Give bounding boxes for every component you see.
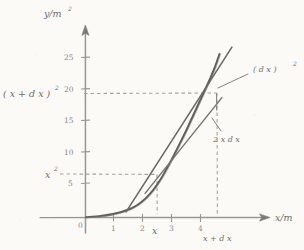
secant-line — [126, 47, 232, 212]
guide-line-horizontal-x-plus-dx-squared — [84, 93, 217, 94]
y-tick-label: 20 — [64, 85, 74, 94]
y-axis-label: y/m — [43, 8, 62, 19]
y-tick-label: 25 — [64, 53, 74, 62]
x-axis-label: x/m — [275, 212, 293, 223]
x-tick-label: 1 — [111, 224, 116, 233]
parabola-curve-shadow — [87, 55, 221, 218]
x-tick-label: 2 — [140, 224, 145, 233]
axes-group — [40, 25, 270, 233]
annotation-x-lower: x — [152, 225, 158, 236]
annotation-y-lower-exponent: 2 — [53, 165, 58, 172]
figure-canvas: y/m 2 x/m 0 5 10 15 20 25 1 2 3 — [0, 0, 304, 250]
axis-labels-group: y/m 2 x/m 0 — [43, 5, 293, 230]
x-tick-label: 3 — [169, 224, 174, 233]
y-tick-mark — [81, 183, 90, 184]
annotation-area-square-exponent: 2 — [292, 60, 297, 67]
guide-lines-group — [60, 93, 217, 214]
derivative-of-x-squared-diagram: y/m 2 x/m 0 5 10 15 20 25 1 2 3 — [0, 0, 304, 250]
y-tick-label: 5 — [68, 179, 73, 188]
annotation-group: ( x + d x ) 2 x 2 x x + d x 2 x d x ( d … — [3, 60, 297, 243]
annotation-x-upper: x + d x — [203, 234, 232, 243]
annotation-area-square: ( d x ) — [253, 65, 277, 74]
tangent-line-at-x — [145, 98, 222, 194]
y-axis-label-exponent: 2 — [67, 5, 72, 12]
y-tick-label: 15 — [64, 116, 74, 125]
y-tick-label: 10 — [64, 148, 74, 157]
curve-group — [86, 54, 221, 218]
annotation-y-lower: x — [45, 169, 51, 180]
origin-label: 0 — [78, 221, 83, 230]
leader-line-2x-dx — [212, 118, 221, 131]
x-tick-label: 4 — [198, 224, 203, 233]
annotation-y-upper-exponent: 2 — [54, 84, 59, 91]
annotation-y-upper: ( x + d x ) — [3, 88, 51, 99]
annotation-area-strip: 2 x d x — [212, 135, 240, 144]
leader-line-dx-squared — [218, 74, 248, 88]
